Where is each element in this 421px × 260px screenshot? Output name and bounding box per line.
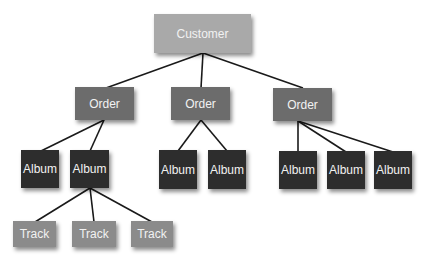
track-node-3: Track <box>131 221 173 247</box>
edge-customer-order1 <box>106 53 203 88</box>
edge-album2-track1 <box>35 188 90 222</box>
album-node-4: Album <box>208 150 246 189</box>
album-node-7: Album <box>374 151 412 189</box>
order-node-2: Order <box>171 87 230 120</box>
edge-order2-album3 <box>178 120 201 151</box>
album-node-5: Album <box>279 151 317 189</box>
album-node-6: Album <box>327 151 365 189</box>
album-node-3: Album <box>159 150 197 189</box>
edge-customer-order2 <box>201 53 203 88</box>
edge-order3-album7 <box>298 121 393 152</box>
track-node-2: Track <box>72 221 116 247</box>
customer-node: Customer <box>154 14 251 53</box>
track-node-1: Track <box>13 221 56 247</box>
edge-customer-order3 <box>203 53 303 88</box>
edge-album2-track2 <box>90 188 94 222</box>
edge-order1-album1 <box>41 120 104 151</box>
edge-order1-album2 <box>90 120 104 151</box>
edge-order3-album6 <box>298 121 346 152</box>
order-node-3: Order <box>273 88 332 121</box>
album-node-2: Album <box>70 150 109 188</box>
order-node-1: Order <box>75 87 134 120</box>
album-node-1: Album <box>21 150 59 188</box>
edge-album2-track3 <box>90 188 152 222</box>
edge-order2-album4 <box>201 120 227 151</box>
